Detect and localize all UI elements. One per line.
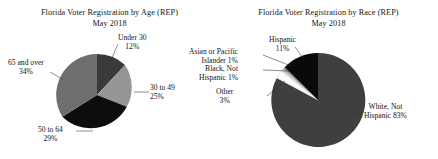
pie-label-asian-or-pacific-islander: Asian or Pacific Islander 1% xyxy=(189,48,238,66)
pie-label-white-value: Hispanic 83% xyxy=(364,112,407,121)
pie-label-50-to-64-value: 29% xyxy=(38,135,63,144)
pie-label-65-and-over: 65 and over 34% xyxy=(8,59,44,77)
pie-label-asian-name: Asian or Pacific xyxy=(189,47,238,56)
pie-chart-age: Florida Voter Registration by Age (REP) … xyxy=(0,0,219,159)
pie-label-other: Other 3% xyxy=(216,88,233,106)
pie-label-30-to-49: 30 to 49 25% xyxy=(150,84,175,102)
pie-svg-race xyxy=(219,0,438,159)
pie-chart-race: Florida Voter Registration by Race (REP)… xyxy=(219,0,438,159)
pie-svg-age xyxy=(0,0,219,159)
pie-label-hispanic: Hispanic 11% xyxy=(269,36,296,54)
pie-label-under-30: Under 30 12% xyxy=(118,34,146,52)
pie-label-other-name: Other xyxy=(216,87,233,96)
pie-label-30-to-49-value: 25% xyxy=(150,93,175,102)
leader-line-asian xyxy=(263,55,291,66)
leader-line-under-30 xyxy=(111,44,118,60)
pie-label-65-and-over-name: 65 and over xyxy=(8,58,44,67)
pie-label-30-to-49-name: 30 to 49 xyxy=(150,83,175,92)
pie-label-other-value: 3% xyxy=(216,97,233,106)
pie-label-hispanic-value: 11% xyxy=(269,45,296,54)
pie-label-black-not-hispanic: Black, Not Hispanic 1% xyxy=(199,65,238,83)
pie-label-under-30-name: Under 30 xyxy=(118,33,146,42)
figure-canvas: Florida Voter Registration by Age (REP) … xyxy=(0,0,438,159)
pie-label-black-value: Hispanic 1% xyxy=(199,74,238,83)
pie-label-hispanic-name: Hispanic xyxy=(269,35,296,44)
pie-label-65-and-over-value: 34% xyxy=(8,68,44,77)
leader-line-hispanic xyxy=(295,47,303,58)
pie-label-white-name: White, Not xyxy=(369,102,403,111)
pie-label-50-to-64-name: 50 to 64 xyxy=(38,125,63,134)
pie-label-black-name: Black, Not xyxy=(205,64,238,73)
pie-label-under-30-value: 12% xyxy=(118,43,146,52)
leader-line-65-and-over xyxy=(50,72,62,79)
pie-label-white-not-hispanic: White, Not Hispanic 83% xyxy=(364,103,407,121)
pie-label-50-to-64: 50 to 64 29% xyxy=(38,126,63,144)
